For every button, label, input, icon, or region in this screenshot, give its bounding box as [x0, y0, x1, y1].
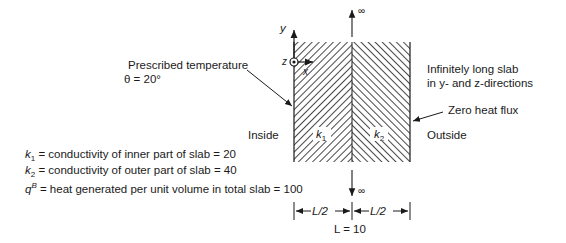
slab-diagram: [0, 0, 566, 243]
infinite-slab-directions: in y- and z-directions: [427, 76, 533, 90]
outside-label: Outside: [427, 128, 467, 142]
zero-flux-leader: [413, 112, 443, 121]
infinity-top-label: ∞: [358, 4, 365, 18]
z-axis-label: z: [282, 55, 287, 69]
k1-region-label: k1: [316, 127, 326, 146]
x-axis-label: x: [303, 65, 308, 79]
definition-qB: qB = heat generated per unit volume in t…: [25, 179, 303, 196]
prescribed-temp-label: Prescribed temperature: [128, 58, 248, 72]
total-length-label: L = 10: [334, 222, 366, 236]
prescribed-temp-value: θ = 20°: [124, 72, 161, 86]
k2-region-label: k2: [374, 127, 384, 146]
zero-heat-flux-label: Zero heat flux: [448, 103, 518, 117]
half-length-right: L/2: [370, 204, 386, 218]
y-axis-label: y: [280, 21, 286, 35]
infinite-slab-label: Infinitely long slab: [427, 62, 518, 76]
prescribed-temp-leader: [247, 70, 292, 106]
half-length-left: L/2: [312, 204, 328, 218]
inside-label: Inside: [248, 128, 279, 142]
infinity-bottom-label: ∞: [358, 184, 365, 198]
